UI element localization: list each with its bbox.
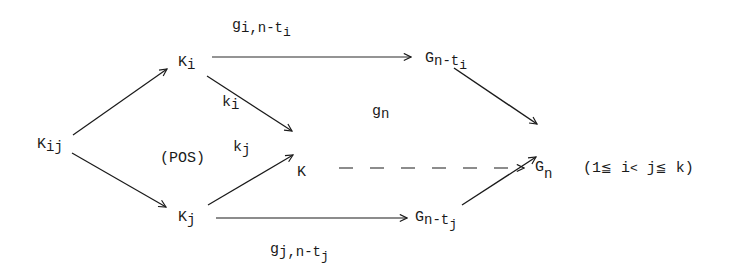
edge-label-k-i-base: k (222, 94, 231, 111)
region-label-pos: (POS) (160, 151, 205, 166)
node-g-n-ti-base: G (425, 50, 434, 67)
node-k-ij-sub: ij (46, 139, 63, 155)
arrow-kj-to-k (208, 155, 293, 205)
node-g-n-tj: Gn-tj (415, 210, 457, 225)
node-g-n-tj-sub: n-tj (424, 212, 457, 228)
condition-leq-2: ≦ (656, 160, 667, 175)
condition-leq-1: ≦ (601, 160, 612, 175)
node-g-n-tj-base: G (415, 209, 424, 226)
node-g-n-sub: n (544, 166, 552, 182)
node-g-n-ti: Gn-ti (425, 51, 467, 66)
condition-close: k) (667, 160, 694, 177)
node-k-ij-base: K (37, 136, 46, 153)
edge-label-k-j-base: k (233, 139, 242, 156)
edge-label-k-i: ki (222, 95, 239, 110)
arrow-gntj-to-gn (462, 157, 536, 205)
edge-label-k-j: kj (233, 140, 250, 155)
edge-label-k-j-sub: j (242, 142, 250, 158)
edge-label-g-j-sub: j,n-tj (279, 244, 329, 260)
arrow-kij-to-ki (73, 69, 167, 135)
condition-open: (1 (583, 160, 601, 177)
edge-label-g-n-sub: n (381, 106, 389, 122)
condition-lt: < (630, 161, 638, 176)
arrow-gnti-to-gn (454, 68, 537, 124)
node-k-j-sub: j (187, 212, 195, 228)
node-g-n: Gn (535, 160, 552, 175)
edge-label-g-i-sub: i,n-ti (241, 20, 291, 36)
node-k-i-base: K (178, 54, 187, 71)
edge-label-g-n-base: g (372, 103, 381, 120)
node-k-i-sub: i (187, 57, 195, 73)
node-k-j-base: K (178, 209, 187, 226)
node-k-j: Kj (178, 210, 195, 225)
node-g-n-tj-subsub: j (449, 217, 457, 232)
edge-label-g-j-base: g (270, 241, 279, 258)
arrow-ki-to-k (207, 76, 292, 131)
node-k-base: K (297, 164, 306, 181)
edge-label-g-i-base: g (232, 17, 241, 34)
edge-label-g-j: gj,n-tj (270, 242, 329, 257)
edge-label-g-i: gi,n-ti (232, 18, 291, 33)
node-k: K (297, 165, 306, 180)
edge-label-k-i-sub: i (231, 97, 239, 113)
edge-label-g-j-subsub: j (321, 249, 329, 264)
condition-i: i (612, 160, 630, 177)
node-g-n-base: G (535, 159, 544, 176)
node-g-n-ti-sub: n-ti (434, 53, 467, 69)
condition-j: j (638, 160, 656, 177)
arrow-kij-to-kj (72, 153, 166, 207)
node-k-ij: Kij (37, 137, 63, 152)
edge-label-g-n: gn (372, 104, 389, 119)
node-k-i: Ki (178, 55, 195, 70)
edge-label-g-i-subsub: i (283, 25, 291, 40)
index-condition: (1≦ i< j≦ k) (583, 161, 694, 176)
diagram-edges (0, 0, 742, 278)
node-g-n-ti-subsub: i (459, 58, 467, 73)
